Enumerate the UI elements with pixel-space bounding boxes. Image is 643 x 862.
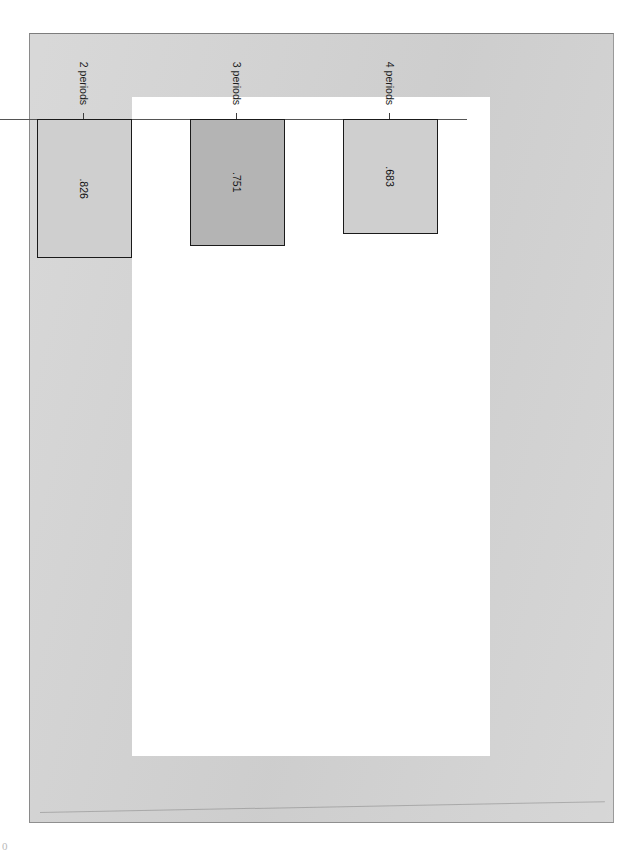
category-label: 3 periods xyxy=(232,35,244,105)
category-label: 2 periods xyxy=(79,35,91,105)
chart-rotated-canvas: 0.000.501.001.502.002.503.00$3.50 1 peri… xyxy=(132,97,490,756)
page-corner-mark: 0 xyxy=(2,840,8,852)
bar-value-label: .683 xyxy=(385,166,397,186)
bar-value-label: .751 xyxy=(232,172,244,192)
category-label: 4 periods xyxy=(385,35,397,105)
scanned-page: 0 Exhibit 9-3 Present value of $1.00 at … xyxy=(0,0,643,862)
bar-value-label: .826 xyxy=(79,178,91,198)
chart-plot-area: 0.000.501.001.502.002.503.00$3.50 1 peri… xyxy=(132,97,490,756)
